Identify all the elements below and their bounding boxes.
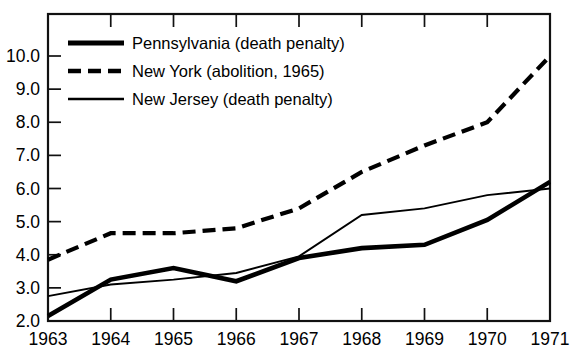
x-axis-labels: 196319641965196619671968196919701971 <box>29 329 570 349</box>
x-tick-label: 1963 <box>29 329 68 349</box>
line-chart: 2.03.04.05.06.07.08.09.010.0 19631964196… <box>0 0 571 354</box>
x-tick-label: 1970 <box>468 329 507 349</box>
x-tick-label: 1965 <box>154 329 193 349</box>
x-tick-label: 1964 <box>91 329 130 349</box>
y-tick-label: 8.0 <box>16 112 41 132</box>
y-axis-ticks <box>48 56 61 321</box>
x-tick-label: 1968 <box>342 329 381 349</box>
y-tick-label: 9.0 <box>16 79 41 99</box>
chart-canvas: 2.03.04.05.06.07.08.09.010.0 19631964196… <box>0 0 571 354</box>
y-tick-label: 10.0 <box>6 46 40 66</box>
y-tick-label: 3.0 <box>16 278 41 298</box>
y-tick-label: 7.0 <box>16 145 41 165</box>
y-axis-labels: 2.03.04.05.06.07.08.09.010.0 <box>6 46 40 331</box>
x-tick-label: 1967 <box>280 329 319 349</box>
y-tick-label: 4.0 <box>16 245 41 265</box>
series-line-pennsylvania <box>48 182 550 316</box>
chart-legend: Pennsylvania (death penalty)New York (ab… <box>68 34 345 108</box>
y-tick-label: 2.0 <box>16 311 41 331</box>
x-tick-label: 1966 <box>217 329 256 349</box>
y-tick-label: 5.0 <box>16 212 41 232</box>
series-line-new-jersey <box>48 189 550 297</box>
x-tick-label: 1971 <box>531 329 570 349</box>
legend-label: New York (abolition, 1965) <box>132 62 325 80</box>
series-line-new-york <box>48 56 550 260</box>
y-tick-label: 6.0 <box>16 179 41 199</box>
x-tick-label: 1969 <box>405 329 444 349</box>
legend-label: New Jersey (death penalty) <box>132 90 333 108</box>
x-axis-ticks <box>111 14 488 321</box>
legend-label: Pennsylvania (death penalty) <box>132 34 345 52</box>
